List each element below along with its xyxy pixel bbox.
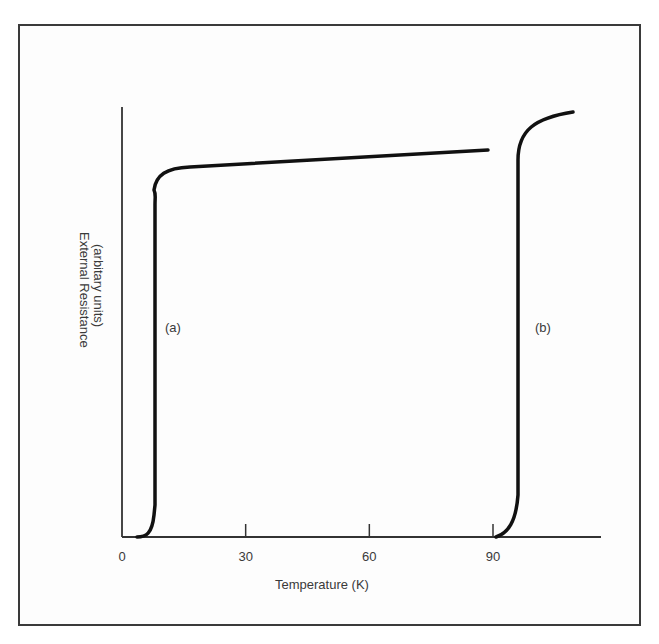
series-b-label: (b): [535, 320, 551, 335]
y-axis-title-line1: External Resistance: [77, 232, 92, 348]
figure-panel: 0306090 (a) (b) Temperature (K) External…: [0, 0, 659, 644]
x-axis-title: Temperature (K): [275, 577, 369, 592]
x-tick-label: 30: [238, 549, 252, 564]
x-tick-label: 0: [118, 549, 125, 564]
x-tick-label: 60: [362, 549, 376, 564]
y-axis-title-line2: (arbitary units): [91, 244, 106, 327]
series-a-label: (a): [165, 320, 181, 335]
x-tick-label: 90: [486, 549, 500, 564]
